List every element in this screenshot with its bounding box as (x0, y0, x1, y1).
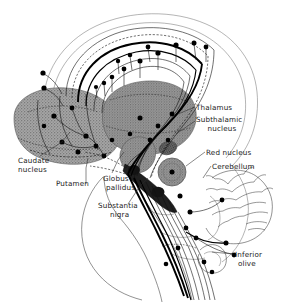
label-cerebellum: Cerebellum (212, 162, 255, 171)
basal-ganglia-diagram: Thalamus Subthalamic nucleus Red nucleus… (0, 0, 285, 302)
label-thalamus: Thalamus (195, 103, 232, 112)
label-red-nucleus: Red nucleus (206, 148, 251, 157)
label-caudate-nucleus-line1: Caudate (18, 156, 50, 165)
label-subthalamic-nucleus-line1: Subthalamic (196, 115, 242, 124)
label-globus-pallidus-line2: pallidus (106, 183, 135, 192)
label-globus-pallidus-line1: Globus (103, 174, 129, 183)
label-subthalamic-nucleus-line2: nucleus (208, 124, 237, 133)
label-putamen: Putamen (56, 179, 89, 188)
label-substantia-nigra-line2: nigra (110, 210, 129, 219)
label-caudate-nucleus-line2: nucleus (18, 165, 47, 174)
label-substantia-nigra-line1: Substantia (98, 201, 138, 210)
label-inferior-olive-line2: olive (238, 259, 256, 268)
red-nucleus-structure (158, 158, 186, 186)
label-inferior-olive-line1: Inferior (235, 250, 262, 259)
